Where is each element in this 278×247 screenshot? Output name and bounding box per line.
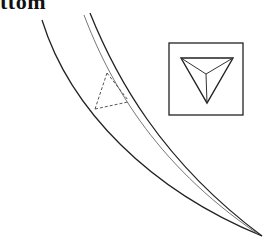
diagram-canvas: ttom xyxy=(0,0,278,247)
diagram-drawing xyxy=(0,0,278,247)
inset-view xyxy=(169,43,243,115)
dashed-section xyxy=(95,73,128,109)
